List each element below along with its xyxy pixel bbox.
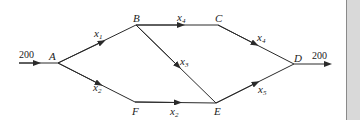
node-label-B: B (133, 13, 140, 24)
node-label-D: D (294, 53, 302, 64)
input-flow-label: 200 (19, 50, 34, 60)
edge-label-x3: x3 (180, 56, 188, 69)
node-label-A: A (49, 51, 56, 62)
edge-label-x2-AF: x2 (93, 82, 101, 95)
node-label-E: E (214, 106, 221, 117)
node-label-F: F (132, 106, 139, 117)
edge-label-x4-CD: x4 (257, 32, 265, 45)
output-flow-label: 200 (312, 51, 327, 61)
side-panel (346, 0, 360, 120)
edge-label-x4-BC: x4 (177, 12, 185, 25)
node-label-C: C (215, 13, 222, 24)
edge-label-x2-FE: x2 (170, 106, 178, 119)
edge-label-x5: x5 (258, 84, 266, 97)
edge-label-x1: x1 (94, 28, 102, 41)
